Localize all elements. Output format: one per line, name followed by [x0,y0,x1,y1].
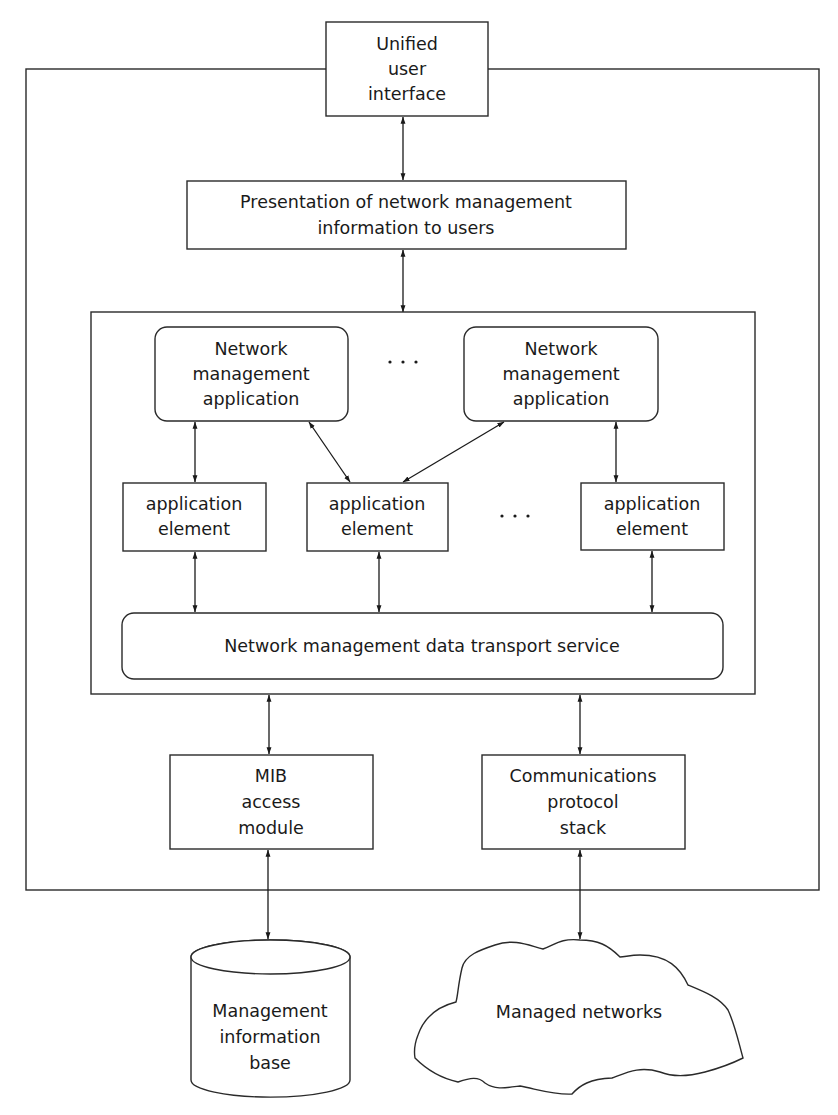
mib-line-1: Management [212,1001,327,1021]
nm-app-1-line-1: Network [214,339,288,359]
presentation-box: Presentation of network management infor… [187,181,626,249]
network-management-diagram: Unified user interface Presentation of n… [0,0,838,1115]
ellipsis-more-elements [500,514,529,517]
unified-ui-line-1: Unified [376,34,438,54]
mib-access-line-3: module [238,818,304,838]
app-elem-2-line-1: application [329,494,426,514]
nm-app-2-line-1: Network [524,339,598,359]
app-elem-3-line-2: element [616,519,688,539]
mib-access-line-2: access [242,792,301,812]
app-elem-1-line-1: application [146,494,243,514]
unified-user-interface-box: Unified user interface [326,22,488,116]
communications-protocol-stack-box: Communications protocol stack [482,755,685,849]
network-management-application-1: Network management application [155,327,348,421]
comm-stack-line-3: stack [560,818,607,838]
app-elem-1-line-2: element [158,519,230,539]
app-elem-3-line-1: application [604,494,701,514]
presentation-line-2: information to users [318,218,495,238]
network-management-application-2: Network management application [464,327,658,421]
nm-app-2-line-2: management [502,364,619,384]
unified-ui-line-2: user [388,59,427,79]
data-transport-service-box: Network management data transport servic… [122,613,723,679]
nm-app-1-line-2: management [192,364,309,384]
arrow-app1-elem2 [309,422,350,482]
application-element-3: application element [581,483,724,550]
app-elem-2-line-2: element [341,519,413,539]
mib-access-line-1: MIB [255,766,287,786]
networks-label: Managed networks [496,1002,662,1022]
unified-ui-line-3: interface [368,84,446,104]
managed-networks-cloud: Managed networks [414,940,743,1094]
ellipsis-more-applications [388,360,417,363]
cylinder-top [191,940,350,974]
arrow-elem2-app2 [403,422,504,482]
mib-line-3: base [249,1053,291,1073]
nm-app-1-line-3: application [203,389,300,409]
application-element-2: application element [307,483,448,551]
nm-app-2-line-3: application [513,389,610,409]
management-information-base-cylinder: Management information base [191,940,350,1097]
presentation-line-1: Presentation of network management [240,192,572,212]
comm-stack-line-2: protocol [547,792,618,812]
mib-access-module-box: MIB access module [170,755,373,849]
comm-stack-line-1: Communications [509,766,656,786]
transport-label: Network management data transport servic… [224,636,620,656]
application-element-1: application element [123,483,266,551]
mib-line-2: information [219,1027,320,1047]
